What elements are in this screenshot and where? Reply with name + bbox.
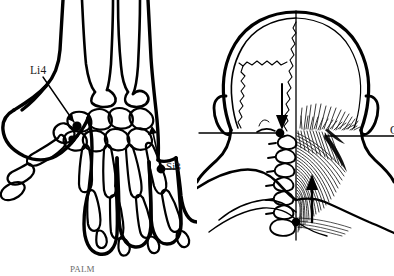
figure-root: Li4 Si3 PALM	[0, 0, 394, 276]
li4-leader-line	[43, 77, 74, 122]
label-palm-view: PALM	[70, 265, 95, 275]
label-li4: Li4	[30, 64, 46, 76]
li4-point-marker	[72, 121, 81, 130]
hair-strokes	[300, 104, 360, 130]
metacarpal-bones	[27, 135, 166, 198]
left-ear	[214, 96, 231, 135]
cranial-sutures	[238, 22, 296, 131]
left-neck-contour	[219, 200, 296, 220]
left-shoulder-line	[197, 170, 296, 201]
head-neck-svg	[197, 0, 394, 276]
si3-point-marker	[157, 165, 166, 174]
gv14-point-marker	[292, 218, 300, 226]
g20-point-marker	[276, 129, 285, 138]
right-shoulder-line	[296, 199, 394, 233]
li4-point-marker-secondary	[68, 135, 75, 142]
hand-diagram-panel: Li4 Si3 PALM	[0, 0, 197, 276]
right-ear	[361, 96, 378, 135]
head-diagram-panel: G20 Local Tender Points Gv14 BACK	[197, 0, 394, 276]
occiput-base-line	[257, 129, 275, 132]
thumb-phalanges	[1, 164, 34, 201]
occiput-detail	[259, 120, 269, 126]
muscle-fibre-fan	[297, 131, 345, 232]
forearm-bones	[82, 0, 148, 107]
label-si3: Si3	[166, 161, 181, 173]
hand-skeleton-svg	[0, 0, 197, 276]
label-g20: G20	[390, 124, 394, 136]
